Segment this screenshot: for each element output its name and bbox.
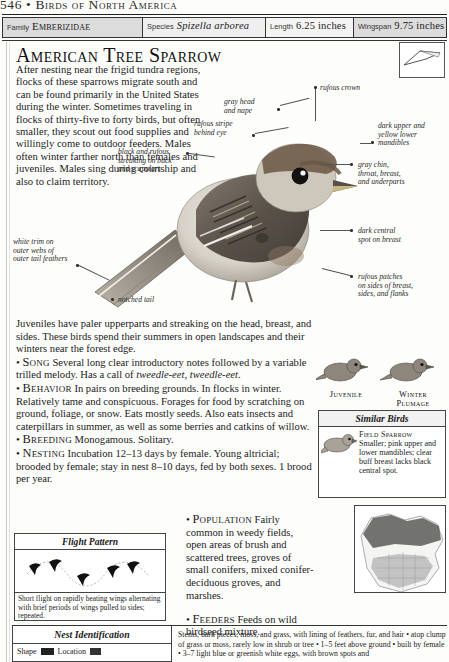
nest-shape-icon xyxy=(41,648,54,655)
field-sparrow-icon xyxy=(321,431,357,463)
section-song: • Song Several long clear introductory n… xyxy=(16,356,312,382)
callout-dot-rufous-stripe xyxy=(252,134,255,137)
callout-white-trim: white trim on outer webs of outer tail f… xyxy=(13,238,67,264)
callout-black-rufous-streaking: black and rufous streaking on back and s… xyxy=(118,148,172,174)
bullet-population: • xyxy=(186,513,190,525)
flight-path-icon xyxy=(15,550,165,592)
north-america-range-map xyxy=(355,506,446,593)
nest-identification-title: Nest Identification xyxy=(13,626,171,644)
section-nesting: • Nesting Incubation 12–13 days by femal… xyxy=(16,447,312,486)
section-song-text-b: . xyxy=(238,369,241,380)
spec-species-value: Spizella arborea xyxy=(177,20,250,31)
section-population-text: Fairly common in weedy fields, open area… xyxy=(186,514,313,601)
running-head-separator: • xyxy=(22,0,35,12)
nest-location-icon xyxy=(90,648,101,655)
leader-central-spot xyxy=(320,230,350,231)
similar-birds-body: Field Sparrow Smaller; pink upper and lo… xyxy=(319,427,445,475)
flight-pattern-caption: Short flight on rapidly beating wings al… xyxy=(15,593,165,623)
bullet-song: • xyxy=(16,356,20,368)
section-population: • Population Fairly common in weedy fiel… xyxy=(186,513,314,602)
flight-pattern-box: Flight Pattern Short flight on rapidly b… xyxy=(14,533,166,621)
plumage-bird-figures xyxy=(316,352,446,388)
nest-location-label: Location xyxy=(58,647,86,656)
callout-dot-gray-head xyxy=(277,108,280,111)
section-behavior-heading: Behavior xyxy=(23,381,72,395)
callout-rufous-crown: rufous crown xyxy=(320,84,360,93)
callout-rufous-stripe: rufous stripe behind eye xyxy=(194,120,233,137)
spec-wingspan-label: Wingspan xyxy=(358,22,391,31)
field-guide-page: 546•Birds of North America Family Emberi… xyxy=(0,0,449,662)
plumage-variants: Juvenile Winter Plumage xyxy=(316,352,446,408)
nest-identification-attributes: Shape Location xyxy=(13,644,171,656)
spec-species-label: Species xyxy=(147,22,174,31)
leader-gray-chin xyxy=(318,164,350,165)
nest-identification-box: Nest Identification Shape Location xyxy=(12,626,172,662)
spec-family: Family Emberizidae xyxy=(3,18,143,37)
flight-pattern-title: Flight Pattern xyxy=(15,534,165,550)
section-breeding-text: Monogamous. Solitary. xyxy=(75,434,174,445)
label-winter-plumage: Winter Plumage xyxy=(384,390,442,409)
juvenile-note: Juveniles have paler upperparts and stre… xyxy=(16,318,312,356)
label-juvenile: Juvenile xyxy=(318,390,374,399)
callout-rufous-patches: rufous patches on sides of breast, sides… xyxy=(358,273,413,299)
callout-dot-notched-tail xyxy=(111,298,114,301)
section-song-call: tweedle-eet, tweedle-eet xyxy=(136,369,238,380)
spec-bar-rule xyxy=(2,40,447,41)
species-account-text: Juveniles have paler upperparts and stre… xyxy=(16,318,312,486)
section-breeding: • Breeding Monogamous. Solitary. xyxy=(16,433,312,447)
bullet-nesting: • xyxy=(16,447,20,459)
nest-shape-label: Shape xyxy=(17,647,37,656)
callout-gray-chin: gray chin, throat, breast, and underpart… xyxy=(358,161,405,187)
spec-family-value: Emberizidae xyxy=(32,20,90,32)
spec-species: Species Spizella arborea xyxy=(143,18,266,37)
section-behavior: • Behavior In pairs on breeding grounds.… xyxy=(16,382,312,433)
spec-wingspan-value: 9.75 inches xyxy=(394,20,444,31)
leader-mandibles xyxy=(360,143,372,144)
spec-length-value: 6.25 inches xyxy=(296,20,346,31)
similar-bird-name: Field Sparrow xyxy=(359,430,442,439)
spec-wingspan: Wingspan 9.75 inches xyxy=(354,18,447,37)
section-breeding-heading: Breeding xyxy=(23,432,72,446)
section-song-heading: Song xyxy=(23,355,50,369)
bullet-breeding: • xyxy=(16,433,20,445)
section-population-heading: Population xyxy=(193,512,252,526)
bullet-feeders: • xyxy=(186,613,190,625)
leader-rufous-crown xyxy=(315,89,316,121)
spec-family-label: Family xyxy=(7,23,29,32)
book-title: Birds of North America xyxy=(35,0,177,12)
spec-length: Length 6.25 inches xyxy=(266,18,354,37)
similar-birds-title: Similar Birds xyxy=(319,411,445,427)
callout-dark-central-spot: dark central spot on breast xyxy=(358,227,401,244)
species-spec-bar: Family Emberizidae Species Spizella arbo… xyxy=(2,17,447,38)
section-nesting-heading: Nesting xyxy=(23,446,65,460)
range-map-box xyxy=(354,505,446,593)
callout-dot-central-spot xyxy=(350,229,353,232)
callout-notched-tail: notched tail xyxy=(118,296,154,305)
running-head: 546•Birds of North America xyxy=(0,0,449,13)
section-feeders-heading: Feeders xyxy=(193,612,235,626)
species-account-right-column: • Population Fairly common in weedy fiel… xyxy=(186,512,314,650)
spec-length-label: Length xyxy=(270,22,293,31)
similar-bird-description: Smaller; pink upper and lower mandibles;… xyxy=(359,439,442,475)
similar-birds-box: Similar Birds Field Sparrow Smaller; pin… xyxy=(318,410,446,498)
callout-gray-head-nape: gray head and nape xyxy=(224,98,255,115)
callout-mandibles: dark upper and yellow lower mandibles xyxy=(378,122,425,148)
page-number: 546 xyxy=(0,0,22,12)
nest-identification-description: Stems, bark pieces, moss, and grass, wit… xyxy=(178,630,446,659)
callout-dot-gray-chin xyxy=(350,163,353,166)
flight-pattern-diagram xyxy=(15,550,165,593)
bullet-behavior: • xyxy=(16,382,20,394)
